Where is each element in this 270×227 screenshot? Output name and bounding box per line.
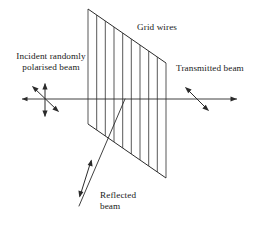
label-reflected-line1: Reflected bbox=[100, 190, 136, 200]
vertical-arrow-head-down bbox=[42, 111, 47, 117]
label-transmitted-beam: Transmitted beam bbox=[176, 63, 244, 74]
label-reflected-beam: Reflectedbeam bbox=[100, 190, 136, 212]
grid-edge-bottom bbox=[88, 124, 166, 178]
beam-axis bbox=[22, 97, 237, 102]
reflected-arrow-head-up bbox=[88, 160, 93, 167]
label-grid-wires: Grid wires bbox=[137, 22, 177, 33]
label-incident-beam: Incident randomlypolarised beam bbox=[4, 51, 98, 73]
incident-beam-start-arrowhead bbox=[22, 97, 28, 101]
label-reflected-line2: beam bbox=[100, 201, 120, 211]
grid-polariser-frame bbox=[88, 9, 166, 178]
grid-wires-group bbox=[88, 9, 166, 178]
figure-container: Grid wires Incident randomlypolarised be… bbox=[0, 0, 270, 227]
label-incident-line1: Incident randomly bbox=[16, 51, 85, 61]
vertical-arrow-head-up bbox=[42, 83, 47, 89]
grid-edge-top bbox=[88, 9, 166, 63]
transmitted-beam-end-arrowhead bbox=[231, 97, 238, 102]
label-incident-line2: polarised beam bbox=[22, 62, 79, 72]
